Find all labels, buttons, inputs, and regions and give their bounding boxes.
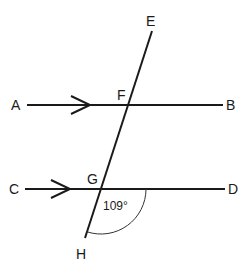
angle-label: 109° (103, 199, 128, 213)
label-h: H (76, 246, 86, 262)
label-g: G (87, 171, 98, 187)
label-e: E (146, 13, 155, 29)
geometry-diagram: E A F B C G D H 109° (0, 0, 251, 269)
label-f: F (117, 87, 126, 103)
label-a: A (11, 97, 21, 113)
label-c: C (9, 181, 19, 197)
label-b: B (226, 97, 235, 113)
label-d: D (228, 181, 238, 197)
